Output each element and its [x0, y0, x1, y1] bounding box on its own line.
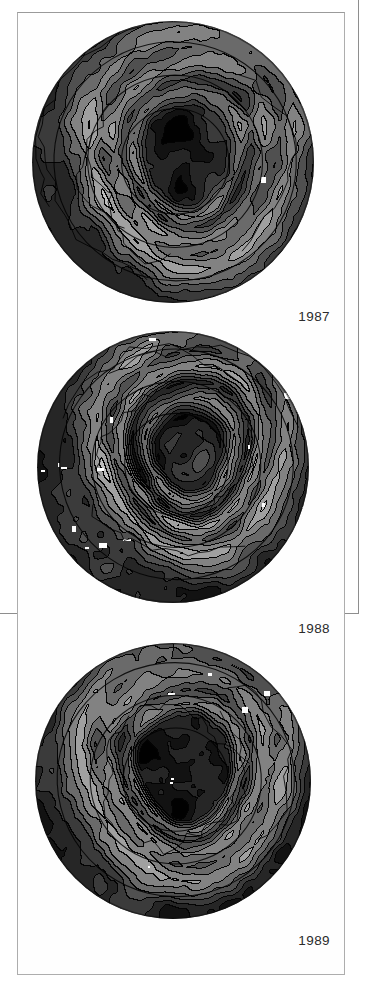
globe-wrap-1988	[37, 331, 309, 603]
ozone-map-canvas	[32, 21, 314, 303]
ozone-map-canvas	[35, 643, 311, 919]
ozone-globe-1988	[37, 331, 309, 603]
ozone-panel-1988: 1988	[18, 331, 344, 641]
ozone-map-canvas	[37, 331, 309, 603]
ozone-panel-1987: 1987	[18, 21, 344, 331]
ozone-globe-1987	[32, 21, 314, 303]
ozone-globe-1989	[35, 643, 311, 919]
figure-frame: 1987 1988 1989	[17, 12, 345, 975]
year-label-1988: 1988	[298, 621, 330, 636]
year-label-1989: 1989	[298, 933, 330, 948]
globe-wrap-1989	[35, 643, 311, 919]
globe-wrap-1987	[32, 21, 314, 303]
ozone-panel-1989: 1989	[18, 643, 344, 968]
year-label-1987: 1987	[298, 309, 330, 324]
